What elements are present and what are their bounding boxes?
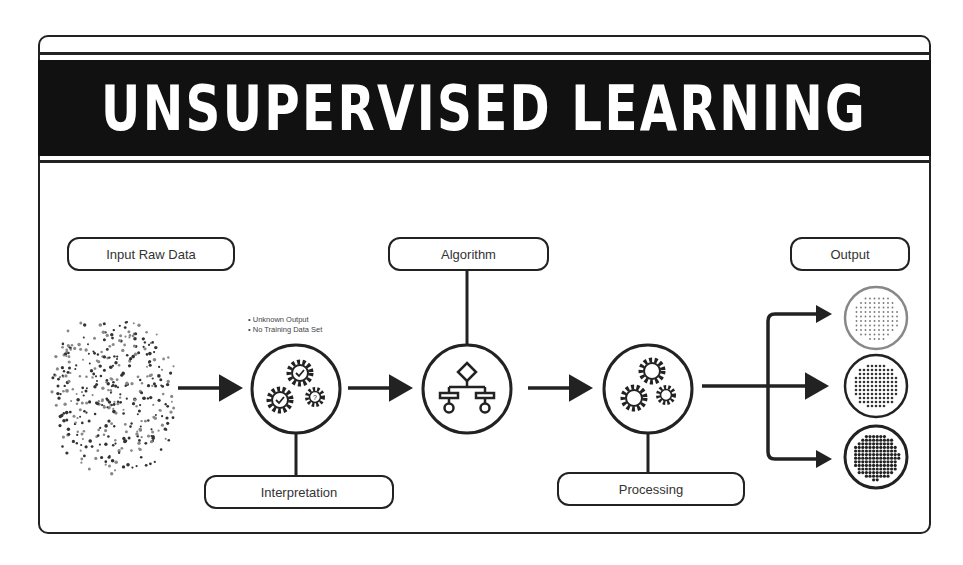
interpretation-notes: • Unknown Output • No Training Data Set — [248, 315, 322, 335]
algorithm-text: Algorithm — [441, 247, 496, 262]
output-text: Output — [830, 247, 869, 262]
flowchart-icon — [423, 345, 511, 433]
note-item: • Unknown Output — [248, 315, 322, 325]
flow-diagram: ? — [0, 0, 963, 565]
algorithm-label: Algorithm — [388, 237, 549, 271]
input-raw-data-text: Input Raw Data — [106, 247, 196, 262]
processing-label: Processing — [557, 472, 745, 506]
note-unknown-output: Unknown Output — [253, 315, 309, 324]
svg-text:?: ? — [313, 394, 317, 401]
interpretation-text: Interpretation — [261, 485, 338, 500]
note-no-training-data: No Training Data Set — [253, 325, 323, 334]
output-label: Output — [790, 237, 910, 271]
medium-cluster-icon — [845, 355, 907, 417]
scatter-dots-icon — [50, 321, 175, 475]
note-item: • No Training Data Set — [248, 325, 322, 335]
dense-cluster-icon — [845, 426, 907, 488]
input-raw-data-label: Input Raw Data — [67, 237, 235, 271]
sparse-cluster-icon — [845, 287, 907, 349]
gears-check-question-icon: ? — [252, 345, 340, 433]
gears-icon — [604, 345, 692, 433]
interpretation-label: Interpretation — [204, 475, 394, 509]
processing-text: Processing — [619, 482, 683, 497]
